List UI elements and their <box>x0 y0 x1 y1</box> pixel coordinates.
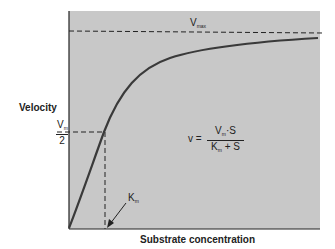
km-label: Km <box>128 192 139 204</box>
y-axis-label: Velocity <box>19 102 57 113</box>
x-axis-label: Substrate concentration <box>140 234 255 245</box>
vmax-line <box>69 31 322 33</box>
vmax-label-main: V <box>190 17 197 28</box>
equation-lhs: v = <box>188 133 202 144</box>
vmax-label-sub: max <box>197 23 206 29</box>
equation-denominator: Km + S <box>207 141 244 156</box>
chart-svg <box>0 0 335 249</box>
equation-fraction: Vm·S Km + S <box>207 125 244 156</box>
half-vmax-num: Vm <box>56 119 68 135</box>
vmax-label: Vmax <box>190 17 206 29</box>
equation-numerator: Vm·S <box>207 125 244 141</box>
half-vmax-label: Vm 2 <box>56 119 68 147</box>
km-arrow <box>110 203 126 224</box>
half-vmax-den: 2 <box>56 135 68 147</box>
